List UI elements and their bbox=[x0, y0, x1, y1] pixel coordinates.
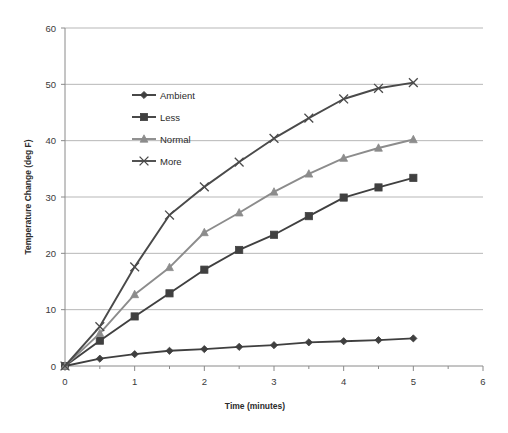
x-tick-label-4: 4 bbox=[341, 376, 346, 387]
x-tick-label-0: 0 bbox=[62, 376, 67, 387]
x-tick-label-5: 5 bbox=[411, 376, 416, 387]
y-tick-label-60: 60 bbox=[45, 23, 56, 34]
marker-square bbox=[140, 113, 147, 120]
chart-container: 0102030405060 0123456 AmbientLessNormalM… bbox=[0, 0, 508, 433]
temperature-change-line-chart: 0102030405060 0123456 AmbientLessNormalM… bbox=[0, 0, 508, 433]
x-axis-title: Time (minutes) bbox=[225, 401, 285, 411]
marker-square bbox=[201, 266, 208, 273]
marker-square bbox=[166, 290, 173, 297]
y-axis-title: Temperature Change (deg F) bbox=[23, 139, 33, 254]
marker-square bbox=[131, 313, 138, 320]
y-tick-label-40: 40 bbox=[45, 135, 56, 146]
y-tick-label-10: 10 bbox=[45, 304, 56, 315]
marker-square bbox=[340, 194, 347, 201]
y-tick-label-50: 50 bbox=[45, 79, 56, 90]
x-tick-label-6: 6 bbox=[480, 376, 485, 387]
marker-square bbox=[375, 184, 382, 191]
marker-square bbox=[270, 231, 277, 238]
x-tick-label-1: 1 bbox=[132, 376, 137, 387]
marker-square bbox=[305, 213, 312, 220]
y-tick-label-30: 30 bbox=[45, 192, 56, 203]
legend-label: Normal bbox=[160, 134, 191, 145]
x-tick-label-2: 2 bbox=[202, 376, 207, 387]
marker-square bbox=[236, 246, 243, 253]
chart-background bbox=[0, 0, 508, 433]
legend-label: Less bbox=[160, 112, 180, 123]
legend-label: More bbox=[160, 156, 182, 167]
x-tick-label-3: 3 bbox=[271, 376, 276, 387]
marker-square bbox=[96, 337, 103, 344]
legend-label: Ambient bbox=[160, 90, 195, 101]
y-tick-label-20: 20 bbox=[45, 248, 56, 259]
marker-square bbox=[410, 174, 417, 181]
y-tick-label-0: 0 bbox=[51, 361, 56, 372]
